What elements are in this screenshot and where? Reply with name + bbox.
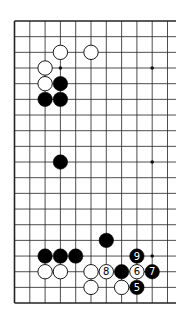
move-number-label: 9 [134,251,140,262]
white-stone [38,265,52,279]
white-stone-icon [38,76,52,90]
black-stone [53,249,67,263]
black-stone [69,249,83,263]
black-stone: 5 [130,280,144,294]
white-stone: 8 [99,265,113,279]
black-stone-icon [53,76,67,90]
white-stone [84,265,98,279]
white-stone [84,280,98,294]
white-stone [84,45,98,59]
white-stone-icon [53,45,67,59]
white-stone-icon [84,265,98,279]
white-stone-icon [114,280,128,294]
go-board: 98675 [0,0,187,324]
black-stone [99,233,113,247]
black-stone-icon [38,249,52,263]
white-stone [53,265,67,279]
white-stone [38,61,52,75]
white-stone: 6 [130,265,144,279]
black-stone-icon [53,92,67,106]
move-number-label: 8 [103,266,109,277]
black-stone-icon [53,155,67,169]
black-stone-icon [114,265,128,279]
white-stone-icon [53,265,67,279]
stones-layer: 98675 [38,45,160,294]
black-stone-icon [69,249,83,263]
black-stone [38,249,52,263]
black-stone: 7 [145,265,159,279]
move-number-label: 5 [134,282,140,293]
move-number-label: 7 [149,266,155,277]
black-stone-icon [53,249,67,263]
black-stone [53,76,67,90]
white-stone-icon [38,265,52,279]
black-stone [53,155,67,169]
black-stone [114,265,128,279]
white-stone [38,76,52,90]
star-point-icon [59,66,63,70]
black-stone-icon [38,92,52,106]
star-point-icon [150,66,154,70]
white-stone-icon [84,45,98,59]
star-point-icon [150,254,154,258]
move-number-label: 6 [134,266,140,277]
star-point-icon [150,160,154,164]
black-stone [53,92,67,106]
white-stone [114,280,128,294]
white-stone-icon [84,280,98,294]
black-stone: 9 [130,249,144,263]
white-stone [53,45,67,59]
black-stone-icon [99,233,113,247]
white-stone-icon [38,61,52,75]
black-stone [38,92,52,106]
